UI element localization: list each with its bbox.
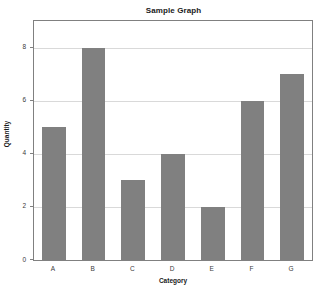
x-tick-label: E [192,265,232,273]
y-tick-label: 8 [4,43,26,50]
x-tick-label: G [271,265,311,273]
bar-A [42,127,66,260]
bar-B [82,48,106,260]
bar-C [121,180,145,260]
bar-chart-figure: Sample Graph Quantity 02468 ABCDEFG Cate… [0,0,328,297]
y-axis: Quantity 02468 [0,20,33,261]
bar-G [280,74,304,260]
x-tick-label: F [232,265,272,273]
y-tick-label: 2 [4,202,26,209]
x-tick-label: C [112,265,152,273]
x-axis-title: Category [33,277,313,285]
bar-E [201,207,225,260]
plot-area [33,20,313,261]
y-tick-label: 4 [4,149,26,156]
x-tick-label: D [152,265,192,273]
y-axis-title: Quantity [3,99,11,169]
bar-D [161,154,185,260]
bar-F [241,101,265,260]
y-tick-label: 6 [4,96,26,103]
y-tick-label: 0 [4,256,26,263]
chart-title: Sample Graph [33,6,314,16]
x-tick-label: A [33,265,73,273]
x-tick-label: B [73,265,113,273]
bar-series [34,21,312,260]
